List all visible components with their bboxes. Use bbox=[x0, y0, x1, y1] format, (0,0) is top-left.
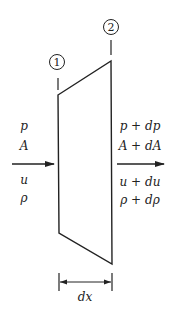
control-volume bbox=[58, 61, 112, 264]
station-2-marker: 2 bbox=[104, 20, 119, 56]
inlet-density-label: ρ bbox=[19, 191, 27, 205]
station-2-label: 2 bbox=[108, 21, 115, 34]
station-1-label: 1 bbox=[54, 56, 61, 69]
control-volume-diagram: 1 2 p A u ρ p + dp A + dA u + du ρ + dρ … bbox=[0, 0, 173, 315]
dx-label: dx bbox=[78, 290, 93, 304]
outlet-area-label: A + dA bbox=[118, 139, 162, 153]
dx-dimension: dx bbox=[59, 273, 112, 304]
outlet-density-label: ρ + dρ bbox=[119, 193, 159, 207]
outlet-pressure-label: p + dp bbox=[120, 119, 161, 133]
station-1-marker: 1 bbox=[50, 55, 65, 91]
inlet-area-label: A bbox=[19, 139, 29, 153]
inlet-velocity-label: u bbox=[20, 173, 28, 187]
inlet-pressure-label: p bbox=[20, 119, 28, 133]
outlet-velocity-label: u + du bbox=[120, 175, 161, 189]
